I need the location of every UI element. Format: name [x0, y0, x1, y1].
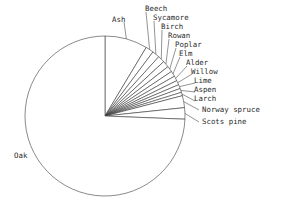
- pie-chart-figure: Ash Beech Sycamore Birch Rowan Poplar El…: [0, 0, 285, 216]
- leader-line: [170, 48, 176, 69]
- leader-line: [146, 12, 150, 50]
- pie-label-sycamore: Sycamore: [153, 14, 189, 22]
- pie-label-oak: Oak: [14, 152, 27, 160]
- pie-label-lime: Lime: [194, 77, 212, 85]
- leader-line: [176, 66, 187, 78]
- leader-line: [179, 83, 195, 87]
- leader-line: [124, 22, 126, 39]
- pie-label-scots-pine: Scots pine: [202, 118, 247, 126]
- pie-label-alder: Alder: [186, 59, 208, 67]
- pie-label-aspen: Aspen: [194, 86, 216, 94]
- leader-line: [178, 74, 192, 83]
- leader-line: [154, 21, 156, 54]
- pie-wedges-group: [25, 36, 185, 196]
- pie-label-ash: Ash: [112, 16, 125, 24]
- leader-line: [166, 39, 169, 64]
- leader-line: [161, 30, 162, 59]
- leader-line: [185, 113, 199, 122]
- pie-label-poplar: Poplar: [175, 41, 202, 49]
- pie-label-elm: Elm: [179, 50, 192, 58]
- leader-line: [181, 90, 195, 92]
- pie-label-beech: Beech: [145, 5, 167, 13]
- pie-label-birch: Birch: [161, 23, 183, 31]
- pie-label-norway-spruce: Norway spruce: [202, 106, 260, 114]
- pie-label-rowan: Rowan: [168, 32, 190, 40]
- pie-label-larch: Larch: [194, 95, 216, 103]
- pie-label-willow: Willow: [191, 68, 218, 76]
- leader-line: [173, 57, 180, 74]
